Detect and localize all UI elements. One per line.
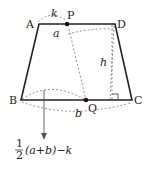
label-h: h — [100, 56, 107, 69]
label-p: P — [67, 9, 75, 22]
formula-rest: (a+b)−k — [25, 144, 73, 157]
label-b: b — [75, 107, 82, 120]
label-d: D — [117, 18, 126, 31]
point-p — [65, 22, 69, 26]
line-pq — [68, 25, 86, 100]
label-a-vertex: A — [25, 18, 35, 31]
trapezoid-figure: A P D B Q C k a h b 1 2 (a+b)−k — [0, 0, 152, 172]
label-b-vertex: B — [9, 94, 17, 107]
right-angle-mark — [112, 94, 118, 100]
label-k: k — [51, 7, 58, 20]
formula-denominator: 2 — [16, 149, 23, 162]
label-q: Q — [88, 102, 97, 115]
arrow-head-icon — [41, 133, 47, 140]
label-c: C — [134, 94, 142, 107]
arc-a — [68, 29, 113, 34]
arc-bq — [22, 90, 84, 100]
label-a: a — [53, 27, 60, 40]
formula: 1 2 (a+b)−k — [15, 137, 73, 162]
